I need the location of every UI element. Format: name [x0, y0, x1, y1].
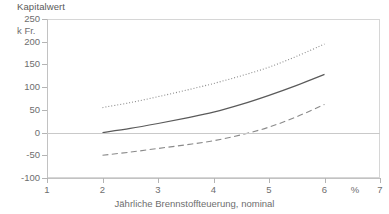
x-tick-label: 1 — [37, 184, 57, 195]
y-tick-label: 250 — [24, 14, 40, 24]
y-axis-unit: k Fr. — [17, 25, 35, 36]
chart-curves — [47, 19, 380, 178]
x-tick-mark — [325, 178, 326, 183]
y-tick-label: 100 — [24, 82, 40, 92]
series-line-upper — [103, 44, 325, 108]
y-tick-label: 150 — [24, 59, 40, 69]
x-tick-label: 2 — [93, 184, 113, 195]
x-tick-mark — [47, 178, 48, 183]
x-tick-label: 7 — [370, 184, 389, 195]
x-tick-mark — [103, 178, 104, 183]
x-tick-mark — [380, 178, 381, 183]
x-tick-mark — [158, 178, 159, 183]
x-axis-title: Jährliche Brennstoffteuerung, nominal — [0, 198, 389, 209]
y-tick-label: 0 — [35, 128, 40, 138]
x-tick-label: 3 — [148, 184, 168, 195]
series-line-middle — [103, 74, 325, 132]
x-tick-label: 4 — [204, 184, 224, 195]
y-axis-line — [47, 19, 48, 178]
x-tick-mark — [214, 178, 215, 183]
x-tick-mark — [269, 178, 270, 183]
y-tick-label: -100 — [21, 173, 40, 183]
y-tick-label: 50 — [29, 105, 40, 115]
chart-container: Kapitalwert 250200150100500-50-100 Jährl… — [0, 0, 389, 214]
x-axis-unit: % — [345, 184, 365, 195]
x-tick-label: 5 — [259, 184, 279, 195]
x-tick-label: 6 — [315, 184, 335, 195]
zero-reference-line — [47, 133, 380, 134]
y-tick-label: -50 — [26, 150, 40, 160]
y-tick-label: 200 — [24, 37, 40, 47]
